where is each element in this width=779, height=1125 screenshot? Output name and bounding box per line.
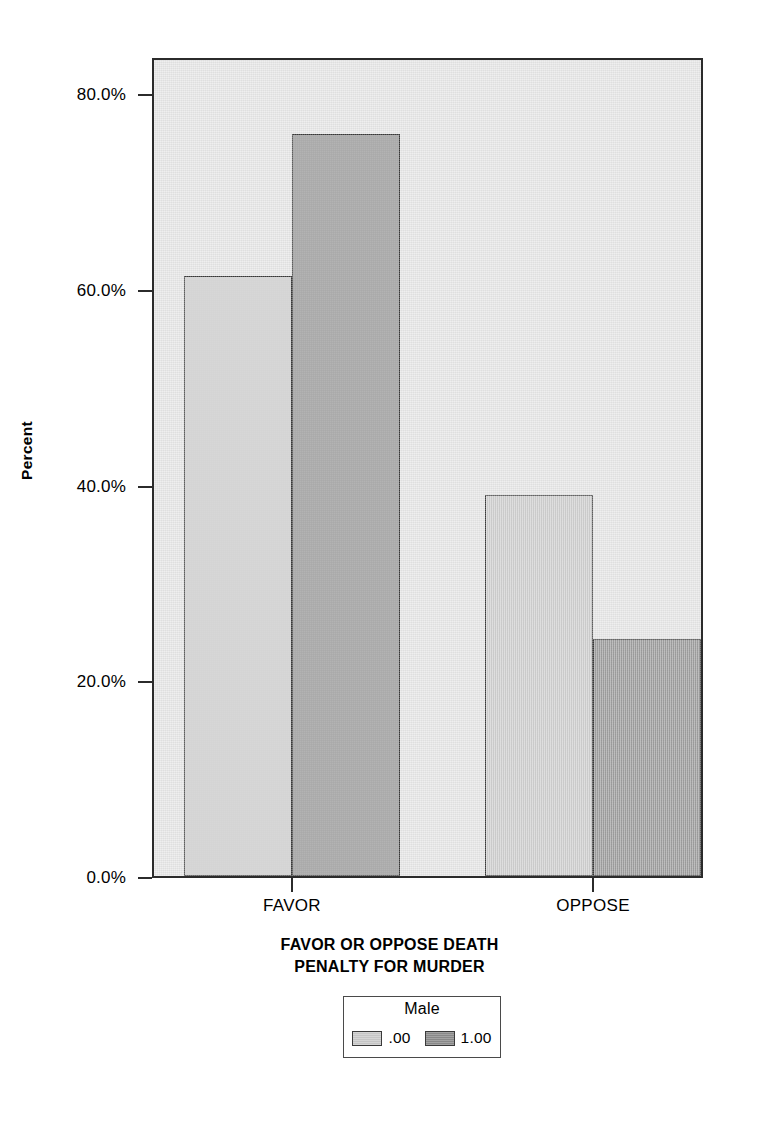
legend-swatch-100 <box>425 1031 455 1046</box>
x-axis-title-line2: PENALTY FOR MURDER <box>0 956 779 978</box>
legend-label-00: .00 <box>388 1029 410 1047</box>
plot-area <box>152 58 703 878</box>
y-tick-mark-60 <box>138 290 152 292</box>
y-tick-label-80: 80.0% <box>77 85 126 105</box>
y-tick-label-40: 40.0% <box>77 477 126 497</box>
bar-oppose-00 <box>485 495 593 876</box>
bar-texture <box>594 640 700 875</box>
y-tick-mark-80 <box>138 94 152 96</box>
x-tick-mark-oppose <box>592 878 594 892</box>
y-tick-mark-0 <box>138 877 152 879</box>
bar-texture <box>185 277 291 875</box>
legend-title: Male <box>344 1000 500 1018</box>
y-tick-label-20: 20.0% <box>77 672 126 692</box>
x-tick-label-oppose: OPPOSE <box>556 896 630 916</box>
swatch-texture <box>426 1032 454 1045</box>
y-tick-label-0: 0.0% <box>86 868 126 888</box>
bar-chart: Percent 80.0% 60.0% 40.0% 20.0% 0.0% FAV… <box>0 0 779 1125</box>
y-tick-mark-20 <box>138 681 152 683</box>
bar-favor-00 <box>184 276 292 876</box>
legend: Male .00 1.00 <box>343 996 501 1058</box>
legend-item-100: 1.00 <box>425 1029 492 1047</box>
legend-item-00: .00 <box>352 1029 410 1047</box>
y-tick-mark-40 <box>138 486 152 488</box>
x-axis-title-line1: FAVOR OR OPPOSE DEATH <box>0 934 779 956</box>
bar-texture <box>486 496 592 875</box>
y-tick-label-60: 60.0% <box>77 281 126 301</box>
bar-texture <box>293 135 399 875</box>
x-tick-mark-favor <box>291 878 293 892</box>
bar-favor-100 <box>292 134 400 876</box>
legend-items: .00 1.00 <box>344 1029 500 1047</box>
legend-swatch-00 <box>352 1031 382 1046</box>
y-axis-title: Percent <box>18 421 36 480</box>
x-tick-label-favor: FAVOR <box>263 896 321 916</box>
bar-oppose-100 <box>593 639 701 876</box>
swatch-texture <box>353 1032 381 1045</box>
x-axis-title: FAVOR OR OPPOSE DEATH PENALTY FOR MURDER <box>0 934 779 978</box>
legend-label-100: 1.00 <box>461 1029 492 1047</box>
